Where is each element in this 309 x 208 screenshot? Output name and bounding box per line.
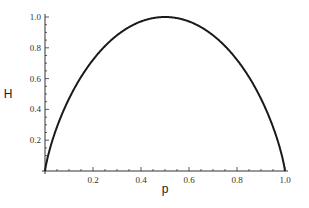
y-tick-label: 0.8	[30, 43, 42, 53]
x-tick-label: 0.6	[183, 175, 195, 185]
axes	[42, 14, 288, 174]
entropy-curve	[45, 17, 285, 171]
entropy-chart: 0.20.40.60.81.00.20.40.60.81.0 p H	[0, 0, 309, 208]
x-tick-label: 0.2	[87, 175, 98, 185]
y-tick-label: 0.4	[30, 104, 42, 114]
y-axis-label: H	[4, 87, 13, 101]
y-tick-label: 1.0	[30, 12, 42, 22]
y-tick-label: 0.2	[30, 135, 41, 145]
x-tick-label: 0.8	[231, 175, 243, 185]
x-tick-label: 0.4	[135, 175, 147, 185]
y-tick-label: 0.6	[30, 74, 42, 84]
x-tick-label: 1.0	[279, 175, 291, 185]
x-axis-label: p	[162, 182, 169, 196]
